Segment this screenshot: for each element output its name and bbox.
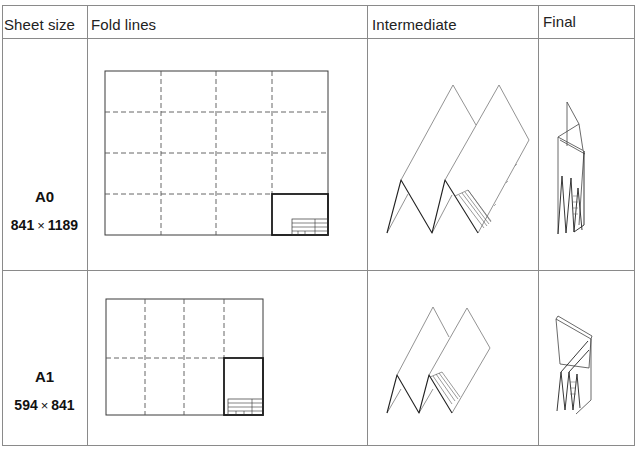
final-fold-a1-icon xyxy=(556,316,592,414)
intermediate-fold-a0-icon xyxy=(387,85,529,233)
fold-lines-a0-icon xyxy=(105,71,328,235)
intermediate-fold-a1-icon xyxy=(387,307,490,413)
final-fold-a0-icon xyxy=(558,102,585,234)
fold-lines-a1-icon xyxy=(106,299,263,415)
title-block-icon xyxy=(272,194,328,235)
drawings-layer xyxy=(0,0,637,452)
title-block-icon xyxy=(224,358,263,415)
